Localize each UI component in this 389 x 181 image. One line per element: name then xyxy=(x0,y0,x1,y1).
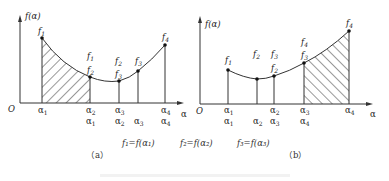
origin-label-a: O xyxy=(8,104,15,114)
point-b-f4 xyxy=(347,29,351,33)
tick-b-r1-2: α2 xyxy=(270,105,280,116)
label-b-f2: f2 xyxy=(252,49,260,60)
point-b-f3 xyxy=(272,74,276,78)
label-b-f1: f1 xyxy=(224,55,232,66)
tick-a-r2-2: α2 xyxy=(115,116,125,127)
origin-label-b: O xyxy=(196,106,203,116)
tick-a-r1-3: α3 xyxy=(115,105,125,116)
label-a-f2-upper: f2 xyxy=(114,56,122,67)
panel-b-caption: （b） xyxy=(284,150,307,160)
label-b-f3b: f3 xyxy=(300,50,308,61)
y-axis-arrow-b xyxy=(198,16,202,23)
shaded-region-b xyxy=(304,31,349,104)
point-a-f4 xyxy=(163,43,167,47)
y-axis-label-a: f(α) xyxy=(24,11,41,21)
two-panel-diagram: f(α) O α f1 f1 f2 f2 f3 f3 f4 α1 α2 α3 α… xyxy=(0,0,389,181)
panel-b: f(α) O α f1 f2 f3 f2 f4 f3 f4 α1 α2 α3 α… xyxy=(196,16,376,160)
tick-b-r1-1: α1 xyxy=(224,105,234,116)
label-a-f1-upper: f1 xyxy=(86,51,94,62)
tick-a-r2-1: α1 xyxy=(86,116,96,127)
panel-a-caption: （a） xyxy=(86,150,109,160)
tick-b-r1-4: α4 xyxy=(345,105,355,116)
label-b-f3: f3 xyxy=(270,49,278,60)
point-a-f3b xyxy=(136,69,140,73)
tick-a-r1-2: α2 xyxy=(86,105,96,116)
label-a-f4: f4 xyxy=(161,32,169,43)
tick-a-r2-3: α3 xyxy=(134,116,144,127)
point-b-f1 xyxy=(226,68,230,72)
formula-f2: f₂=f(α₂) xyxy=(179,138,213,148)
x-axis-arrow-b xyxy=(366,102,373,106)
tick-a-r1-1: α1 xyxy=(38,105,48,116)
label-a-f3: f3 xyxy=(114,69,122,80)
label-b-f4-upper: f4 xyxy=(300,37,308,48)
tick-b-r2-4: α4 xyxy=(300,116,310,127)
formula-f3: f₃=f(α₃) xyxy=(236,138,270,148)
tick-a-r2-4: α4 xyxy=(161,116,171,127)
point-b-f2 xyxy=(255,77,259,81)
x-axis-label-a: α xyxy=(181,109,187,119)
y-axis-label-b: f(α) xyxy=(204,19,221,29)
y-axis-arrow-a xyxy=(18,15,22,22)
panel-a: f(α) O α f1 f1 f2 f2 f3 f3 f4 α1 α2 α3 α… xyxy=(8,11,187,160)
x-axis-label-b: α xyxy=(370,109,376,119)
label-a-f1: f1 xyxy=(37,26,45,37)
tick-b-r2-2: α2 xyxy=(253,116,263,127)
tick-a-r1-4: α4 xyxy=(161,105,171,116)
label-b-f4: f4 xyxy=(345,18,353,29)
tick-b-r1-3: α3 xyxy=(300,105,310,116)
point-b-f3b xyxy=(302,61,306,65)
formula-f1: f₁=f(α₁) xyxy=(121,138,155,148)
x-axis-arrow-a xyxy=(177,101,184,105)
tick-b-r2-3: α3 xyxy=(270,116,280,127)
label-b-f2-lower: f2 xyxy=(270,63,278,74)
tick-b-r2-1: α1 xyxy=(224,116,234,127)
faint-caption-line xyxy=(100,174,290,177)
label-a-f3b: f3 xyxy=(134,56,142,67)
label-a-f2: f2 xyxy=(86,65,94,76)
